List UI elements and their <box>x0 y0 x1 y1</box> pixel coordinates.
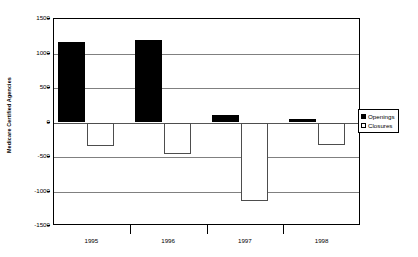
y-tick-label: -1500 <box>20 222 50 228</box>
y-tick-mark <box>47 18 50 19</box>
legend-item-openings[interactable]: Openings <box>361 112 395 121</box>
y-tick-label: 1000 <box>20 49 50 55</box>
y-tick-mark <box>47 53 50 54</box>
y-tick-label: 500 <box>20 84 50 90</box>
bar-openings-1995 <box>58 42 85 122</box>
x-axis-separator <box>283 225 284 234</box>
x-axis: 1995199619971998 <box>53 225 360 257</box>
bar-closures-1996 <box>164 123 191 155</box>
y-tick-label: 1500 <box>20 15 50 21</box>
legend-label: Closures <box>368 122 392 130</box>
y-tick-mark <box>47 87 50 88</box>
y-tick-mark <box>47 225 50 226</box>
bar-openings-1997 <box>212 115 239 123</box>
x-tick-label-1995: 1995 <box>84 237 98 244</box>
x-tick-label-1996: 1996 <box>161 237 175 244</box>
y-tick-label: -1000 <box>20 187 50 193</box>
x-tick-label-1998: 1998 <box>315 237 329 244</box>
x-axis-separator <box>207 225 208 234</box>
x-axis-separator <box>130 225 131 234</box>
bar-closures-1997 <box>241 123 268 202</box>
y-axis-title: Medicare Certified Agencies <box>0 0 18 230</box>
y-tick-label: -500 <box>20 153 50 159</box>
gridline--500 <box>54 157 359 158</box>
gridline--1000 <box>54 192 359 193</box>
y-tick-label: 0 <box>20 118 50 124</box>
bar-chart: Medicare Certified Agencies 150010005000… <box>0 0 418 257</box>
hollow-square-icon <box>361 123 366 128</box>
legend-item-closures[interactable]: Closures <box>361 121 395 130</box>
gridline-1000 <box>54 54 359 55</box>
plot-area <box>53 18 360 225</box>
y-tick-mark <box>47 191 50 192</box>
gridline-500 <box>54 88 359 89</box>
bar-openings-1998 <box>289 119 316 123</box>
chart-legend: OpeningsClosures <box>358 109 399 133</box>
bar-openings-1996 <box>135 40 162 123</box>
y-tick-mark <box>47 156 50 157</box>
y-axis-ticks: 150010005000-500-1000-1500 <box>18 0 50 257</box>
legend-label: Openings <box>368 113 395 121</box>
y-axis-title-label: Medicare Certified Agencies <box>6 77 12 153</box>
x-tick-label-1997: 1997 <box>238 237 252 244</box>
bar-closures-1998 <box>318 123 345 145</box>
bar-closures-1995 <box>87 123 114 146</box>
filled-square-icon <box>361 114 366 119</box>
y-tick-mark <box>47 122 50 123</box>
